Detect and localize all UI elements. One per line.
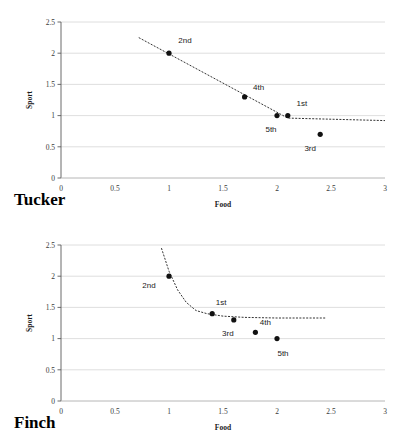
x-tick-label: 2 [275,184,279,193]
data-point-label: 2nd [142,281,155,290]
panel-title-finch: Finch [14,414,56,431]
y-axis-title: Sport [25,91,34,109]
data-point-label: 1st [216,298,227,307]
y-tick-label: 1 [51,111,55,120]
data-point-label: 5th [265,125,276,134]
x-tick-label: 1 [167,184,171,193]
data-point-label: 4th [260,318,271,327]
y-tick-label: 2.5 [46,241,56,250]
x-tick-label: 3 [383,407,387,416]
trendline [139,38,385,121]
chart-panel-tucker: 00.511.522.500.511.522.53FoodSport2nd4th… [0,0,404,223]
data-point-label: 5th [277,349,288,358]
y-tick-label: 1 [51,334,55,343]
data-point [285,113,290,118]
y-tick-label: 0.5 [46,143,56,152]
x-tick-label: 0 [59,407,63,416]
x-tick-label: 1.5 [218,407,228,416]
data-point [318,132,323,137]
data-point [210,311,215,316]
panel-title-tucker: Tucker [14,191,65,208]
x-tick-label: 2.5 [326,184,336,193]
x-tick-label: 0.5 [110,407,120,416]
y-tick-label: 2 [51,49,55,58]
y-tick-label: 2 [51,272,55,281]
y-axis-title: Sport [25,314,34,332]
x-tick-label: 1.5 [218,184,228,193]
x-tick-label: 2.5 [326,407,336,416]
x-axis-title: Food [215,200,232,209]
y-tick-label: 0 [51,174,55,183]
data-point [242,94,247,99]
data-point [231,317,236,322]
data-point-label: 3rd [222,329,234,338]
y-tick-label: 1.5 [46,303,56,312]
scatter-plot-finch: 00.511.522.500.511.522.53FoodSport2nd1st… [0,223,404,446]
x-tick-label: 2 [275,407,279,416]
data-point [274,113,279,118]
x-tick-label: 0.5 [110,184,120,193]
figure-page: 00.511.522.500.511.522.53FoodSport2nd4th… [0,0,404,446]
data-point-label: 1st [296,99,307,108]
data-point-label: 3rd [304,144,316,153]
data-point-label: 4th [253,83,264,92]
data-point [253,330,258,335]
x-tick-label: 1 [167,407,171,416]
data-point [166,274,171,279]
y-tick-label: 1.5 [46,80,56,89]
y-tick-label: 0 [51,397,55,406]
data-point-label: 2nd [178,36,191,45]
data-point [166,51,171,56]
y-tick-label: 2.5 [46,18,56,27]
chart-panel-finch: 00.511.522.500.511.522.53FoodSport2nd1st… [0,223,404,446]
y-tick-label: 0.5 [46,366,56,375]
data-point [274,336,279,341]
x-tick-label: 3 [383,184,387,193]
x-axis-title: Food [215,423,232,432]
